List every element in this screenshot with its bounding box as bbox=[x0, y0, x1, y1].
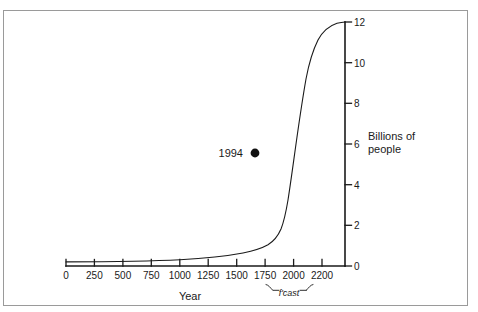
population-growth-figure: 0 250 500 750 1000 1250 1500 1750 2000 2… bbox=[0, 0, 478, 312]
data-point-marker-layer bbox=[0, 0, 478, 312]
data-point-1994-marker bbox=[251, 149, 260, 158]
forecast-label: f'cast bbox=[279, 288, 300, 298]
